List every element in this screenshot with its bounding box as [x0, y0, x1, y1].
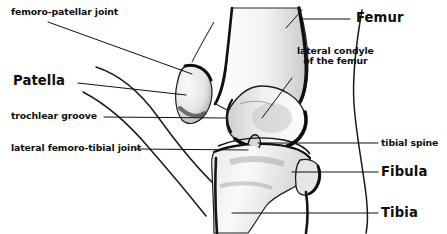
- quadriceps-tendon-line: [192, 22, 214, 62]
- label-lateral-condyle-of-the-femur: lateral condyle of the femur: [297, 46, 374, 66]
- anatomical-figure: femoro-patellar joint Patella trochlear …: [0, 0, 447, 234]
- label-patella: Patella: [13, 74, 65, 88]
- label-lateral-condyle-line2: of the femur: [297, 56, 374, 66]
- label-lateral-femoro-tibial-joint: lateral femoro-tibial joint: [11, 143, 141, 153]
- posterior-skin-contour: [353, 10, 367, 233]
- leader-trochlear-groove: [104, 117, 226, 118]
- label-femur: Femur: [356, 11, 404, 25]
- condyle-shading-blob: [252, 103, 292, 133]
- label-femoro-patellar-joint: femoro-patellar joint: [11, 7, 118, 17]
- patella-bone: [176, 22, 214, 123]
- leader-patella: [78, 83, 186, 95]
- femur-bone: [215, 8, 308, 149]
- leader-femoro-patellar-joint: [48, 22, 192, 74]
- label-tibia: Tibia: [381, 206, 418, 220]
- fibula-head: [296, 159, 321, 195]
- label-fibula: Fibula: [381, 165, 427, 179]
- label-trochlear-groove: trochlear groove: [11, 111, 97, 121]
- fibula-bone: [296, 159, 321, 233]
- label-tibial-spine: tibial spine: [381, 138, 438, 148]
